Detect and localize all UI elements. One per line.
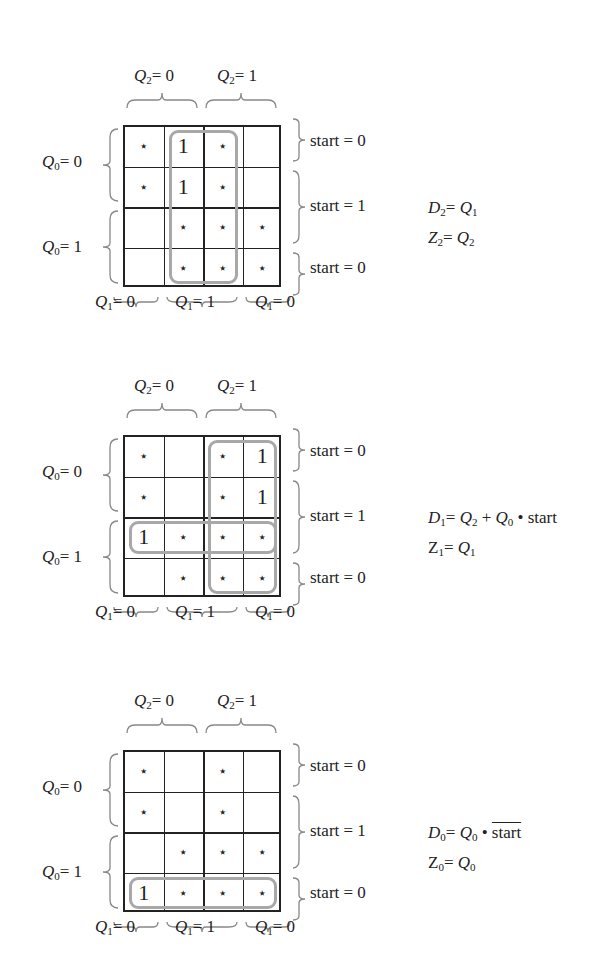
start-0-top-brace	[292, 428, 306, 476]
q1-0-left-label: Q1= 0	[95, 602, 135, 622]
q2-1-label: Q2= 1	[217, 66, 257, 86]
kmap-cell: ⋆	[164, 873, 204, 914]
kmap-cell	[243, 126, 283, 167]
start-1-label: start = 1	[310, 821, 366, 841]
start-0-top-brace	[292, 743, 306, 791]
q0-1-label: Q0= 1	[42, 862, 82, 882]
kmap-cell: ⋆	[203, 436, 243, 477]
kmap-cell: ⋆	[243, 517, 283, 558]
start-0-top-label: start = 0	[310, 756, 366, 776]
kmap-cell: ⋆	[164, 832, 204, 873]
kmap-cell: ⋆	[243, 207, 283, 248]
cell-value: ⋆	[179, 884, 188, 902]
kmap-cell: ⋆	[203, 832, 243, 873]
start-0-bottom-label: start = 0	[310, 258, 366, 278]
kmap-cell	[243, 751, 283, 792]
kmap-cell: ⋆	[124, 477, 164, 518]
cell-value: ⋆	[139, 447, 148, 465]
cell-value: ⋆	[258, 569, 267, 587]
cell-value: ⋆	[139, 137, 148, 155]
q0-0-brace	[102, 438, 118, 516]
cell-value: 1	[257, 484, 268, 510]
kmap-cell: ⋆	[124, 436, 164, 477]
kmap-cell: ⋆	[164, 207, 204, 248]
cell-value: ⋆	[218, 843, 227, 861]
kmap-cell: ⋆	[124, 792, 164, 833]
cell-value: 1	[178, 174, 189, 200]
cell-value: ⋆	[218, 569, 227, 587]
q1-0-right-label: Q1= 0	[255, 602, 295, 622]
kmap-cell: 1	[164, 126, 204, 167]
q1-1-label: Q1= 1	[175, 917, 215, 937]
start-1-label: start = 1	[310, 506, 366, 526]
cell-value: ⋆	[179, 843, 188, 861]
cell-value: ⋆	[139, 488, 148, 506]
q2-1-brace	[205, 402, 277, 422]
q2-0-label: Q2= 0	[134, 376, 174, 396]
q0-0-label: Q0= 0	[42, 462, 82, 482]
equation-z0: Z0= Q0	[428, 850, 521, 880]
cell-value: ⋆	[139, 803, 148, 821]
kmap-cell	[243, 167, 283, 208]
kmap-cell: ⋆	[243, 248, 283, 289]
q1-0-right-label: Q1= 0	[255, 292, 295, 312]
q0-0-label: Q0= 0	[42, 152, 82, 172]
kmap-cell: ⋆	[124, 167, 164, 208]
cell-value: 1	[138, 524, 149, 550]
kmap-cell	[124, 558, 164, 599]
q1-0-left-label: Q1= 0	[95, 292, 135, 312]
kmap-cell: ⋆	[203, 126, 243, 167]
kmap-cell	[164, 477, 204, 518]
kmap-cell: ⋆	[243, 873, 283, 914]
kmap-grid: ⋆⋆1⋆⋆11⋆⋆⋆⋆⋆⋆	[123, 435, 281, 597]
q1-0-right-label: Q1= 0	[255, 917, 295, 937]
kmap-cell: ⋆	[164, 558, 204, 599]
kmap-cell: ⋆	[203, 873, 243, 914]
kmap-cell: ⋆	[124, 751, 164, 792]
q0-1-brace	[102, 835, 118, 913]
start-1-brace	[292, 480, 306, 558]
cell-value: ⋆	[218, 447, 227, 465]
q0-1-brace	[102, 210, 118, 288]
q2-0-brace	[126, 717, 198, 737]
kmap-cell: ⋆	[164, 517, 204, 558]
karnaugh-map-d1: Q2= 0Q2= 1Q0= 0Q0= 1start = 0start = 1st…	[0, 310, 607, 610]
q2-0-brace	[126, 92, 198, 112]
kmap-cell	[164, 792, 204, 833]
cell-value: ⋆	[218, 528, 227, 546]
start-0-top-brace	[292, 118, 306, 166]
kmap-cell: ⋆	[243, 832, 283, 873]
kmap-cell: ⋆	[203, 167, 243, 208]
cell-value: 1	[178, 133, 189, 159]
cell-value: ⋆	[179, 528, 188, 546]
equation-d2: D2= Q1	[428, 195, 477, 225]
kmap-cell: ⋆	[203, 207, 243, 248]
kmap-cell: 1	[164, 167, 204, 208]
q0-0-brace	[102, 128, 118, 206]
cell-value: ⋆	[218, 137, 227, 155]
equations: D0= Q0 • start Z0= Q0	[428, 820, 521, 880]
cell-value: ⋆	[218, 259, 227, 277]
cell-value: ⋆	[218, 488, 227, 506]
kmap-cell: 1	[124, 873, 164, 914]
q0-1-label: Q0= 1	[42, 547, 82, 567]
start-1-brace	[292, 795, 306, 873]
equations: D2= Q1 Z2= Q2	[428, 195, 477, 255]
q0-0-brace	[102, 753, 118, 831]
start-0-top-label: start = 0	[310, 131, 366, 151]
karnaugh-map-d0: Q2= 0Q2= 1Q0= 0Q0= 1start = 0start = 1st…	[0, 625, 607, 925]
kmap-cell	[164, 751, 204, 792]
q2-0-label: Q2= 0	[134, 691, 174, 711]
cell-value: ⋆	[179, 218, 188, 236]
kmap-cell: ⋆	[203, 477, 243, 518]
kmap-cell: 1	[243, 436, 283, 477]
cell-value: ⋆	[218, 218, 227, 236]
cell-value: ⋆	[218, 178, 227, 196]
kmap-grid: ⋆1⋆⋆1⋆⋆⋆⋆⋆⋆⋆	[123, 125, 281, 287]
start-0-bottom-label: start = 0	[310, 883, 366, 903]
cell-value: ⋆	[218, 762, 227, 780]
q2-0-brace	[126, 402, 198, 422]
cell-value: ⋆	[258, 884, 267, 902]
kmap-cell: ⋆	[124, 126, 164, 167]
kmap-cell: ⋆	[203, 558, 243, 599]
